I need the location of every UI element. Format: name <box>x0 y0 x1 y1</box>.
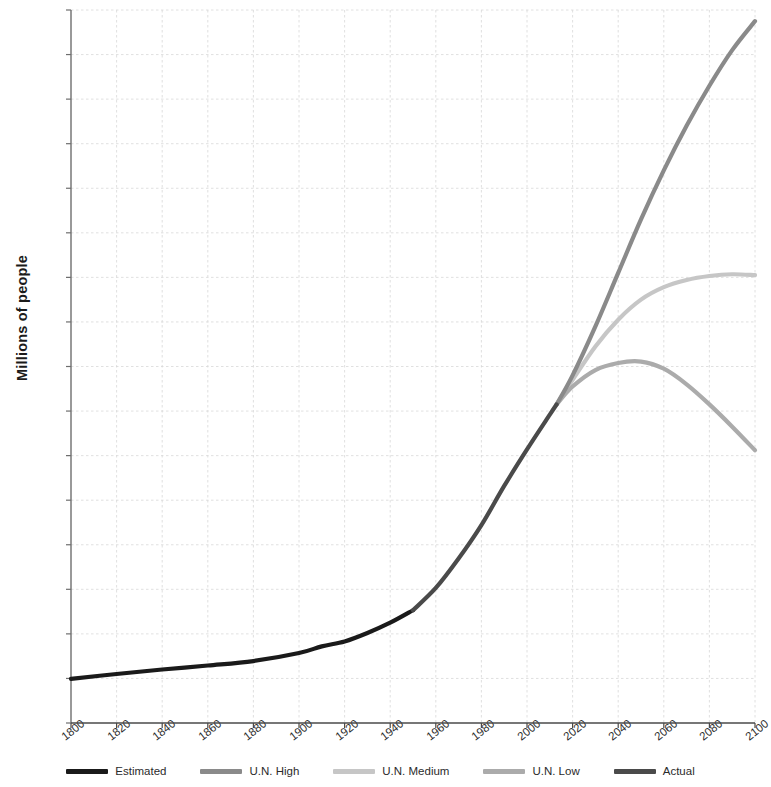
legend-swatch-icon <box>66 769 108 774</box>
legend-label: U.N. Low <box>532 765 579 777</box>
legend-label: Actual <box>663 765 695 777</box>
series-line <box>557 21 755 404</box>
legend-swatch-icon <box>483 769 525 774</box>
legend-item[interactable]: Estimated <box>66 765 166 777</box>
gridlines <box>71 10 755 723</box>
legend-item[interactable]: U.N. Medium <box>333 765 449 777</box>
chart-legend: EstimatedU.N. HighU.N. MediumU.N. LowAct… <box>0 760 761 782</box>
data-series <box>71 21 755 679</box>
legend-label: U.N. Medium <box>382 765 449 777</box>
legend-swatch-icon <box>333 769 375 774</box>
legend-swatch-icon <box>614 769 656 774</box>
legend-item[interactable]: Actual <box>614 765 695 777</box>
series-line <box>413 404 557 610</box>
legend-label: U.N. High <box>249 765 299 777</box>
legend-item[interactable]: U.N. Low <box>483 765 579 777</box>
y-axis-title: Millions of people <box>14 208 30 428</box>
plot-area <box>71 10 755 723</box>
legend-label: Estimated <box>115 765 166 777</box>
plot-canvas <box>71 10 755 723</box>
legend-swatch-icon <box>200 769 242 774</box>
series-line <box>557 274 755 404</box>
legend-item[interactable]: U.N. High <box>200 765 299 777</box>
series-line <box>557 361 755 450</box>
tick-marks <box>66 10 755 728</box>
series-line <box>71 610 413 679</box>
